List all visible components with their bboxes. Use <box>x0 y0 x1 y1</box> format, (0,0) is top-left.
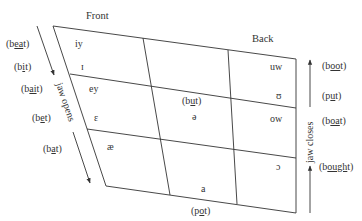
vowel-eh: ɛ <box>94 112 98 123</box>
right-word-put: (put) <box>322 90 341 102</box>
center-word-pot: (pot) <box>191 205 210 217</box>
vowel-ae: æ <box>107 141 114 152</box>
vowel-quadrilateral <box>53 26 296 213</box>
svg-text:(boat): (boat) <box>322 115 346 127</box>
svg-text:(beat): (beat) <box>6 38 29 50</box>
vowel-open-o: ɔ <box>276 161 281 172</box>
jaw-closes-label: jaw closes <box>304 122 315 164</box>
svg-text:(put): (put) <box>322 90 341 102</box>
vowel-a: a <box>201 183 206 194</box>
jaw-opens-label: jaw opens <box>54 80 78 123</box>
jaw-opens-arrow-top <box>37 26 54 75</box>
right-word-boat: (boat) <box>322 115 346 127</box>
vowel-uw: uw <box>270 61 283 72</box>
svg-text:(bet): (bet) <box>32 112 51 124</box>
vowel-ow: ow <box>270 113 283 124</box>
vowel-iy: iy <box>75 38 83 49</box>
vowel-chart: Front Back jaw opens jaw closes (beat) (… <box>0 0 362 221</box>
left-word-bet: (bet) <box>32 112 51 124</box>
svg-text:(but): (but) <box>182 95 201 107</box>
vowel-ey: ey <box>89 83 98 94</box>
vowel-schwa: ə <box>192 111 197 122</box>
left-word-bait: (bait) <box>21 83 43 95</box>
svg-text:(boot): (boot) <box>322 60 346 72</box>
divider-mid-low <box>87 129 296 158</box>
vowel-ih: ɪ <box>81 61 84 72</box>
svg-text:(pot): (pot) <box>191 205 210 217</box>
svg-text:(bit): (bit) <box>14 61 31 73</box>
divider-central-back <box>228 50 237 204</box>
left-word-beat: (beat) <box>6 38 29 50</box>
svg-text:(bat): (bat) <box>43 143 62 155</box>
left-word-bit: (bit) <box>14 61 31 73</box>
right-word-bought: (bought) <box>319 161 353 173</box>
divider-front-central <box>143 38 170 195</box>
vowel-uh: ʊ <box>276 90 282 101</box>
front-label: Front <box>86 10 109 21</box>
right-word-boot: (boot) <box>322 60 346 72</box>
jaw-opens-arrow-bottom <box>73 132 90 183</box>
svg-text:(bought): (bought) <box>319 161 353 173</box>
back-label: Back <box>252 33 274 44</box>
center-word-but: (but) <box>182 95 201 107</box>
left-word-bat: (bat) <box>43 143 62 155</box>
svg-text:(bait): (bait) <box>21 83 43 95</box>
